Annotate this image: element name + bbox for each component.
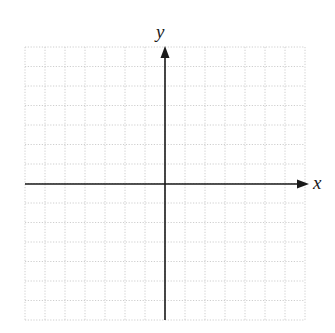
y-axis-arrow-icon [161,46,170,58]
x-axis-label: x [313,173,321,192]
y-axis-label: y [156,22,164,41]
coordinate-plane [0,0,335,333]
x-axis-arrow-icon [297,180,309,189]
axes [25,46,309,320]
